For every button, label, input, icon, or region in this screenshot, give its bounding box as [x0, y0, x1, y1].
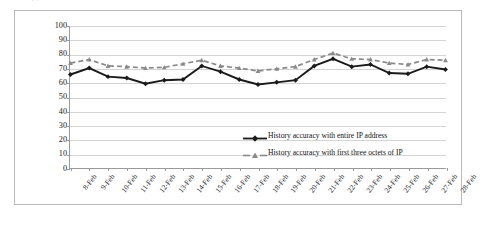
x-axis-tick-label: 23-Feb — [365, 173, 384, 194]
y-axis-tick-label: 90 — [33, 36, 67, 44]
x-axis-tick-label: 18-Feb — [271, 173, 290, 194]
chart-legend: History accuracy with entire IP address … — [242, 127, 447, 161]
x-axis-tick-label: 9-Feb — [100, 173, 116, 191]
x-axis-tick-label: 24-Feb — [383, 173, 402, 194]
legend-key-solid-diamond — [242, 130, 268, 141]
data-point-marker — [162, 78, 167, 83]
x-axis-tick-label: 20-Feb — [308, 173, 327, 194]
data-point-marker — [68, 72, 73, 77]
y-axis-tick-label: 40 — [33, 108, 67, 116]
y-axis-tick-label: 50 — [33, 93, 67, 101]
legend-item-three-octets: History accuracy with first three octets… — [242, 144, 447, 161]
x-axis-tick-label: 22-Feb — [346, 173, 365, 194]
y-axis-tick-label: 30 — [33, 122, 67, 130]
x-axis-tick-label: 10-Feb — [120, 173, 139, 194]
data-point-marker — [255, 82, 260, 87]
x-axis-tick-label: 28-Feb — [459, 173, 478, 194]
data-point-marker — [424, 64, 429, 69]
x-axis-tick-label: 19-Feb — [289, 173, 308, 194]
chart-figure: History accuracy (%) 1009080706050403020… — [14, 10, 462, 205]
data-point-marker — [124, 76, 129, 81]
data-point-marker — [443, 67, 448, 72]
data-point-marker — [143, 81, 148, 86]
x-axis-tick-label: 25-Feb — [402, 173, 421, 194]
x-axis-tick-label: 16-Feb — [233, 173, 252, 194]
y-axis-tick-label: 80 — [33, 50, 67, 58]
data-point-marker — [443, 58, 448, 62]
y-axis-tick-label: 70 — [33, 65, 67, 73]
y-axis-tick-label: 10 — [33, 150, 67, 158]
legend-item-entire-ip: History accuracy with entire IP address — [242, 127, 447, 144]
y-axis-tick-label: 0 — [33, 165, 67, 173]
x-axis-tick-label: 11-Feb — [139, 173, 158, 194]
legend-key-dashed-triangle — [242, 147, 268, 158]
x-axis-tick-label: 26-Feb — [421, 173, 440, 194]
y-axis-tick-label: 20 — [33, 136, 67, 144]
x-axis-tick-label: 17-Feb — [252, 173, 271, 194]
legend-label: History accuracy with first three octets… — [268, 148, 403, 157]
x-axis-tick-label: 27-Feb — [440, 173, 459, 194]
x-axis-tick-label: 21-Feb — [327, 173, 346, 194]
y-axis-tick-label: 100 — [33, 22, 67, 30]
series-dashed — [68, 51, 448, 73]
data-point-marker — [274, 80, 279, 85]
x-axis-tick-mark — [447, 168, 448, 171]
x-axis-tick-label: 8-Feb — [81, 173, 97, 191]
x-axis-tick-label: 14-Feb — [195, 173, 214, 194]
data-point-marker — [405, 71, 410, 76]
x-axis-tick-label: 12-Feb — [158, 173, 177, 194]
x-axis-tick-label: 13-Feb — [177, 173, 196, 194]
y-axis-tick-label: 60 — [33, 79, 67, 87]
x-axis-tick-label: 15-Feb — [214, 173, 233, 194]
legend-label: History accuracy with entire IP address — [268, 131, 387, 140]
